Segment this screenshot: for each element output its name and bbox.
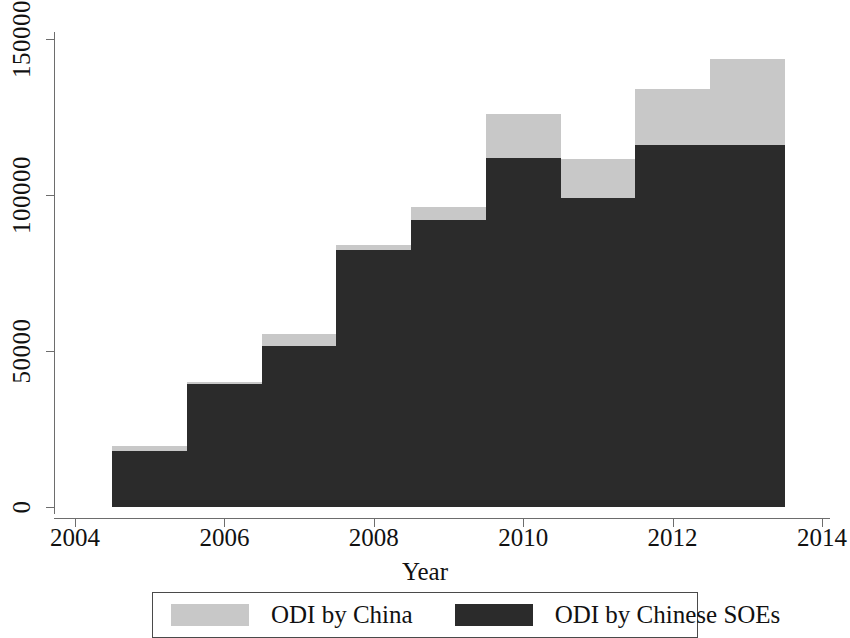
x-axis-title: Year: [0, 558, 850, 586]
bar-segment-odi-by-chinese-soes: [336, 250, 411, 507]
legend-label-odi-by-chinese-soes: ODI by Chinese SOEs: [555, 601, 781, 629]
bar-stack: [187, 382, 262, 507]
bar-stack: [561, 159, 636, 507]
x-axis-tick-label: 2014: [797, 524, 847, 552]
legend-label-odi-by-china: ODI by China: [271, 601, 413, 629]
legend-item-odi-by-chinese-soes: ODI by Chinese SOEs: [455, 601, 781, 629]
bar-segment-odi-by-chinese-soes: [262, 346, 337, 507]
legend-swatch-odi-by-chinese-soes: [455, 604, 533, 626]
bar-stack: [710, 59, 785, 507]
bar-segment-odi-by-chinese-soes: [486, 158, 561, 507]
x-axis-line: [54, 518, 830, 519]
x-axis-tick-label: 2010: [498, 524, 548, 552]
chart-legend: ODI by China ODI by Chinese SOEs: [152, 592, 698, 638]
bar-segment-odi-by-chinese-soes: [411, 220, 486, 507]
bar-stack: [635, 89, 710, 507]
bar-stack: [112, 446, 187, 507]
y-axis-tick-label: 50000: [8, 319, 36, 384]
bar-segment-odi-by-chinese-soes: [187, 384, 262, 507]
y-axis-tick-label: 150000: [8, 0, 36, 78]
plot-area: [54, 39, 822, 507]
x-axis-tick-label: 2004: [50, 524, 100, 552]
y-axis-tick: [46, 507, 55, 508]
bar-stack: [411, 207, 486, 507]
bar-stack: [262, 334, 337, 507]
bar-stack: [486, 114, 561, 507]
legend-item-odi-by-china: ODI by China: [171, 601, 413, 629]
legend-swatch-odi-by-china: [171, 604, 249, 626]
x-axis-tick-label: 2006: [199, 524, 249, 552]
chart-figure: 050000100000150000 200420062008201020122…: [0, 0, 850, 638]
bar-segment-odi-by-chinese-soes: [561, 198, 636, 507]
x-axis-tick-label: 2012: [648, 524, 698, 552]
bar-segment-odi-by-chinese-soes: [635, 145, 710, 507]
y-axis-tick-label: 100000: [8, 156, 36, 234]
bar-segment-odi-by-chinese-soes: [112, 451, 187, 507]
y-axis-tick-label: 0: [8, 501, 36, 514]
x-axis-tick-label: 2008: [349, 524, 399, 552]
bar-stack: [336, 245, 411, 507]
bar-segment-odi-by-chinese-soes: [710, 145, 785, 507]
